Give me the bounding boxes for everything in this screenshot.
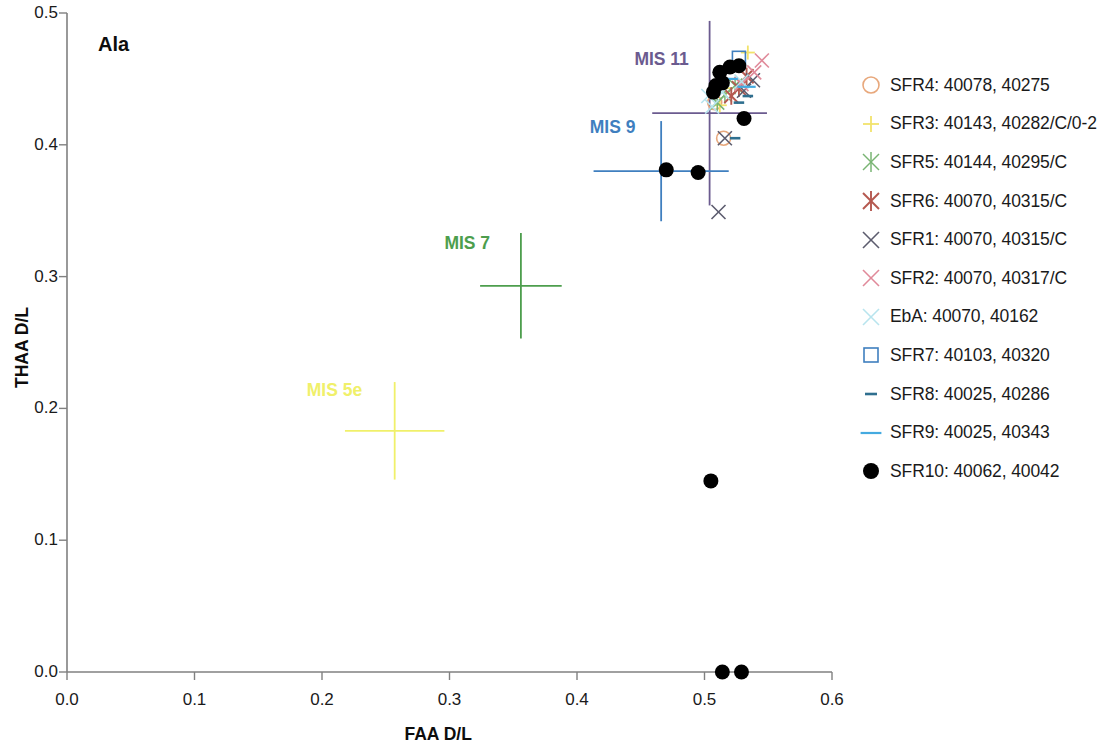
data-point [703, 473, 718, 488]
legend-glyph [863, 309, 879, 325]
legend-item-label: SFR10: 40062, 40042 [890, 461, 1059, 482]
legend-item[interactable]: SFR7: 40103, 40320 [852, 336, 1114, 375]
legend-marker-glyph [856, 149, 886, 175]
legend-item[interactable]: SFR8: 40025, 40286 [852, 375, 1114, 414]
legend-item[interactable]: SFR4: 40078, 40275 [852, 66, 1114, 105]
legend-marker-square-open [852, 342, 890, 368]
x-tick-label: 0.5 [693, 690, 717, 710]
x-axis-title: FAA D/L [405, 724, 472, 744]
legend-marker-circle-filled [852, 458, 890, 484]
legend-marker-glyph [856, 342, 886, 368]
mis-annotation-label: MIS 7 [444, 233, 490, 254]
plot-title: Ala [98, 33, 129, 56]
x-tick-label: 0.1 [183, 690, 207, 710]
circle-filled-marker [863, 463, 879, 479]
mis-annotation-label: MIS 11 [634, 49, 688, 70]
data-points-layer [659, 46, 769, 680]
data-point [717, 131, 731, 145]
legend-item-label: SFR4: 40078, 40275 [890, 75, 1050, 96]
chart-legend: SFR4: 40078, 40275SFR3: 40143, 40282/C/0… [852, 66, 1114, 491]
legend-item-label: EbA: 40070, 40162 [890, 306, 1038, 327]
legend-glyph [863, 270, 879, 286]
mis-errorbar-mis-7 [480, 233, 562, 338]
legend-marker-dash-long [852, 420, 890, 446]
legend-glyph [863, 77, 879, 93]
x-tick-label: 0.2 [310, 690, 334, 710]
legend-marker-glyph [856, 420, 886, 446]
series-sfr10 [659, 58, 752, 679]
legend-marker-circle-open [852, 72, 890, 98]
legend-item[interactable]: SFR9: 40025, 40343 [852, 413, 1114, 452]
y-axis-title: THAA D/L [12, 306, 33, 387]
legend-marker-cross [852, 227, 890, 253]
legend-item-label: SFR5: 40144, 40295/C [890, 152, 1067, 173]
y-tick-label: 0.2 [18, 398, 58, 418]
legend-marker-glyph [856, 111, 886, 137]
legend-glyph [863, 232, 879, 248]
legend-glyph [863, 191, 879, 211]
circle-open-marker [717, 131, 731, 145]
legend-item-label: SFR3: 40143, 40282/C/0-2 [890, 113, 1097, 134]
legend-marker-plus [852, 111, 890, 137]
square-open-marker [864, 348, 878, 362]
data-point [731, 58, 746, 73]
circle-open-marker [863, 77, 879, 93]
legend-marker-glyph [856, 381, 886, 407]
legend-item-label: SFR2: 40070, 40317/C [890, 268, 1067, 289]
y-tick-label: 0.1 [18, 530, 58, 550]
x-tick-label: 0.4 [565, 690, 589, 710]
circle-filled-marker [706, 85, 721, 100]
legend-item[interactable]: SFR1: 40070, 40315/C [852, 220, 1114, 259]
circle-filled-marker [691, 165, 706, 180]
data-point [741, 46, 755, 60]
legend-item-label: SFR1: 40070, 40315/C [890, 229, 1067, 250]
y-tick-label: 0.0 [18, 662, 58, 682]
data-point [659, 162, 674, 177]
legend-item-label: SFR9: 40025, 40343 [890, 422, 1050, 443]
legend-marker-asterisk-bold [852, 188, 890, 214]
legend-item[interactable]: SFR2: 40070, 40317/C [852, 259, 1114, 298]
data-point [718, 131, 732, 145]
legend-item[interactable]: SFR3: 40143, 40282/C/0-2 [852, 105, 1114, 144]
legend-item-label: SFR6: 40070, 40315/C [890, 191, 1067, 212]
legend-marker-glyph [856, 265, 886, 291]
legend-marker-cross [852, 265, 890, 291]
circle-filled-marker [715, 665, 730, 680]
mis-annotation-label: MIS 9 [590, 117, 636, 138]
data-point [691, 165, 706, 180]
legend-item-label: SFR7: 40103, 40320 [890, 345, 1050, 366]
legend-glyph [863, 152, 879, 172]
data-point [715, 665, 730, 680]
legend-item[interactable]: SFR6: 40070, 40315/C [852, 182, 1114, 221]
data-point [737, 111, 752, 126]
x-tick-label: 0.3 [438, 690, 462, 710]
data-point [734, 665, 749, 680]
circle-filled-marker [737, 111, 752, 126]
legend-item[interactable]: EbA: 40070, 40162 [852, 298, 1114, 337]
legend-glyph [863, 116, 879, 132]
data-point [755, 53, 769, 67]
legend-marker-glyph [856, 188, 886, 214]
legend-item-label: SFR8: 40025, 40286 [890, 384, 1050, 405]
x-tick-label: 0.6 [820, 690, 844, 710]
legend-marker-glyph [856, 72, 886, 98]
legend-item[interactable]: SFR10: 40062, 40042 [852, 452, 1114, 491]
y-tick-label: 0.5 [18, 3, 58, 23]
mis-annotation-label: MIS 5e [307, 380, 362, 401]
legend-marker-glyph [856, 227, 886, 253]
legend-glyph [863, 463, 879, 479]
y-tick-label: 0.3 [18, 267, 58, 287]
data-point [712, 205, 726, 219]
legend-glyph [864, 348, 878, 362]
legend-marker-asterisk [852, 149, 890, 175]
legend-item[interactable]: SFR5: 40144, 40295/C [852, 143, 1114, 182]
circle-filled-marker [731, 58, 746, 73]
circle-filled-marker [659, 162, 674, 177]
legend-marker-glyph [856, 458, 886, 484]
x-tick-label: 0.0 [55, 690, 79, 710]
circle-filled-marker [734, 665, 749, 680]
circle-filled-marker [703, 473, 718, 488]
legend-marker-glyph [856, 304, 886, 330]
data-point [706, 85, 721, 100]
